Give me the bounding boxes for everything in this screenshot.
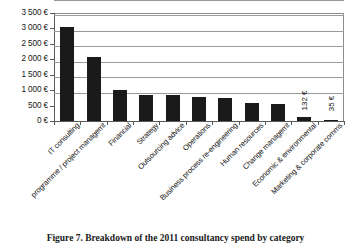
- figure-container: 0 €500 €1 000 €1 500 €2 000 €2 500 €3 00…: [0, 0, 351, 244]
- y-tick-label: 500 €: [0, 101, 48, 110]
- bar[interactable]: [271, 104, 285, 121]
- bar[interactable]: [113, 90, 127, 121]
- bar[interactable]: [245, 103, 259, 121]
- y-tick-label: 2 500 €: [0, 39, 48, 48]
- bar-slot: [265, 13, 291, 121]
- bar[interactable]: [166, 95, 180, 121]
- bar-slot: [107, 13, 133, 121]
- bar[interactable]: [87, 57, 101, 121]
- bar[interactable]: [139, 95, 153, 121]
- y-tick-label: 3 000 €: [0, 23, 48, 32]
- bar-slot: [186, 13, 212, 121]
- x-category-label: Strategy: [134, 121, 160, 147]
- bar[interactable]: [218, 98, 232, 121]
- bar-slot: [159, 13, 185, 121]
- y-tick-label: 1 500 €: [0, 70, 48, 79]
- y-tick-label: 1 000 €: [0, 85, 48, 94]
- bar[interactable]: [60, 27, 74, 121]
- bar-slot: [133, 13, 159, 121]
- bar-slot: [80, 13, 106, 121]
- bar-slot: [212, 13, 238, 121]
- bar-value-label: 35 €: [326, 96, 335, 112]
- y-tick-label: 3 500 €: [0, 8, 48, 17]
- bar-value-label: 132 €: [300, 90, 309, 110]
- y-tick-label: 2 000 €: [0, 54, 48, 63]
- x-category-label: Financial: [107, 121, 134, 148]
- x-category-label: Outsourcing advice: [136, 121, 186, 171]
- bar-slot: 132 €: [291, 13, 317, 121]
- bar[interactable]: [192, 97, 206, 121]
- x-category-label: Change managemt: [241, 121, 291, 171]
- bar-slot: 35 €: [318, 13, 344, 121]
- gridline: [54, 0, 344, 1]
- figure-caption: Figure 7. Breakdown of the 2011 consulta…: [0, 233, 351, 243]
- bar-series: 132 €35 €: [54, 13, 344, 121]
- bar-slot: [54, 13, 80, 121]
- bar-slot: [239, 13, 265, 121]
- x-axis-category-labels: IT consultingprogramme / project managem…: [0, 121, 351, 231]
